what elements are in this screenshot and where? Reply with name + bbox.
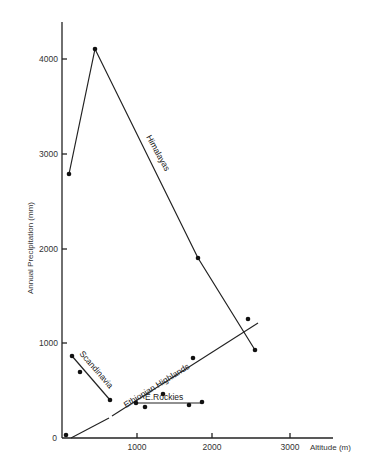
x-tick-labels: 1000 2000 3000: [128, 442, 300, 452]
x-tick-1000: 1000: [128, 442, 147, 452]
y-tick-labels: 4000 3000 2000 1000 0: [39, 54, 58, 443]
x-tick-2000: 2000: [203, 442, 222, 452]
x-axis-title: Altitude (m): [310, 443, 351, 452]
series-scandinavia: Scandinavia: [70, 349, 116, 403]
y-tick-0: 0: [52, 433, 57, 443]
y-axis-title: Annual Precipitation (mm): [26, 202, 35, 294]
y-tick-3000: 3000: [39, 149, 58, 159]
label-himalayas: Himalayas: [144, 133, 172, 173]
series-himalayas: Himalayas: [67, 47, 258, 353]
y-tick-4000: 4000: [39, 54, 58, 64]
y-tick-1000: 1000: [39, 338, 58, 348]
y-tick-2000: 2000: [39, 244, 58, 254]
precipitation-altitude-chart: 4000 3000 2000 1000 0 1000 2000 3000 Alt…: [0, 0, 376, 468]
series-ethiopian-highlands: Ethiopian Highlands: [64, 317, 258, 438]
label-e-rockies: E.Rockies: [145, 392, 183, 402]
series-e-rockies: E.Rockies: [134, 392, 205, 410]
x-tick-3000: 3000: [281, 442, 300, 452]
